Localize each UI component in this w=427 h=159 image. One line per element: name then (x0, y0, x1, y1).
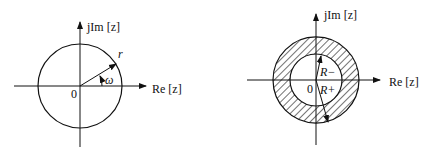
right-real-axis-label: Re [z] (389, 75, 419, 89)
angle-label: ω (105, 73, 113, 87)
right-z-plane: jIm [z] Re [z] 0 R− R+ (247, 8, 419, 145)
left-origin-label: 0 (71, 87, 77, 101)
outer-radius-label: R+ (319, 83, 335, 97)
z-plane-diagrams: jIm [z] Re [z] 0 r ω jIm [z] Re [z] 0 R−… (0, 0, 427, 159)
angle-arc (100, 76, 102, 86)
left-z-plane: jIm [z] Re [z] 0 r ω (14, 20, 182, 147)
radius-label: r (118, 47, 123, 61)
right-imag-axis-label: jIm [z] (323, 8, 357, 22)
inner-radius-label: R− (319, 65, 335, 79)
right-origin-label: 0 (307, 82, 313, 96)
left-real-axis-label: Re [z] (152, 82, 182, 96)
left-imag-axis-label: jIm [z] (86, 20, 120, 34)
